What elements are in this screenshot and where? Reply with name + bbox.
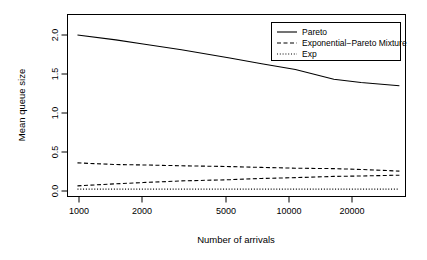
chart-figure: 2.0 1.5 1.0 0.5 0.0 1000 2000 5000 10000… [0,0,427,260]
x-tick-label-5000: 5000 [216,206,236,216]
y-tick-label-0-5: 0.5 [50,146,60,159]
y-tick-label-2-0: 2.0 [50,29,60,42]
y-tick-label-1-5: 1.5 [50,68,60,81]
y-tick-label-0-0: 0.0 [50,185,60,198]
legend-label-pareto: Pareto [302,27,327,37]
chart-svg: 2.0 1.5 1.0 0.5 0.0 1000 2000 5000 10000… [0,0,427,260]
x-tick-label-20000: 20000 [339,206,364,216]
x-axis-title: Number of arrivals [197,234,275,245]
x-tick-label-2000: 2000 [132,206,152,216]
y-tick-label-1-0: 1.0 [50,107,60,120]
x-tick-label-10000: 10000 [276,206,301,216]
legend: Pareto Exponential−Pareto Mixture Exp [272,23,407,61]
x-tick-label-1000: 1000 [69,206,89,216]
legend-label-exp: Exp [302,49,317,59]
y-axis-title: Mean queue size [16,69,27,141]
legend-label-exponential-pareto-mixture: Exponential−Pareto Mixture [302,38,407,48]
